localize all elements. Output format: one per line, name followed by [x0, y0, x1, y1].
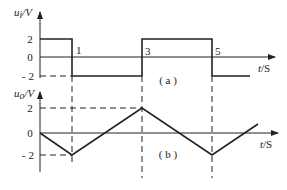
- time-mark-1: 1: [76, 44, 82, 56]
- time-mark-5: 5: [215, 45, 221, 57]
- y-axis-label-a: ui/V: [14, 6, 33, 20]
- y-tick-neg2-a: - 2: [22, 70, 34, 82]
- triangle-wave: [40, 108, 258, 155]
- x-axis-label-a: t/S: [258, 62, 270, 74]
- waveform-diagram: ui/V 2 0 - 2 1 3 5 t/S ( a ) uo/V 2 0 - …: [0, 0, 287, 190]
- graph-a: ui/V 2 0 - 2 1 3 5 t/S ( a ): [14, 6, 275, 87]
- y-tick-0-a: 0: [27, 51, 33, 63]
- y-tick-neg2-b: - 2: [22, 149, 34, 161]
- caption-b: ( b ): [159, 148, 178, 161]
- x-axis-label-b: t/S: [260, 138, 272, 150]
- y-axis-label-b: uo/V: [14, 87, 36, 101]
- time-mark-3: 3: [145, 45, 151, 57]
- caption-a: ( a ): [159, 74, 177, 87]
- y-tick-0-b: 0: [27, 127, 33, 139]
- graph-b: uo/V 2 0 - 2 t/S ( b ): [14, 87, 278, 172]
- y-tick-2-a: 2: [27, 33, 33, 45]
- y-tick-2-b: 2: [27, 102, 33, 114]
